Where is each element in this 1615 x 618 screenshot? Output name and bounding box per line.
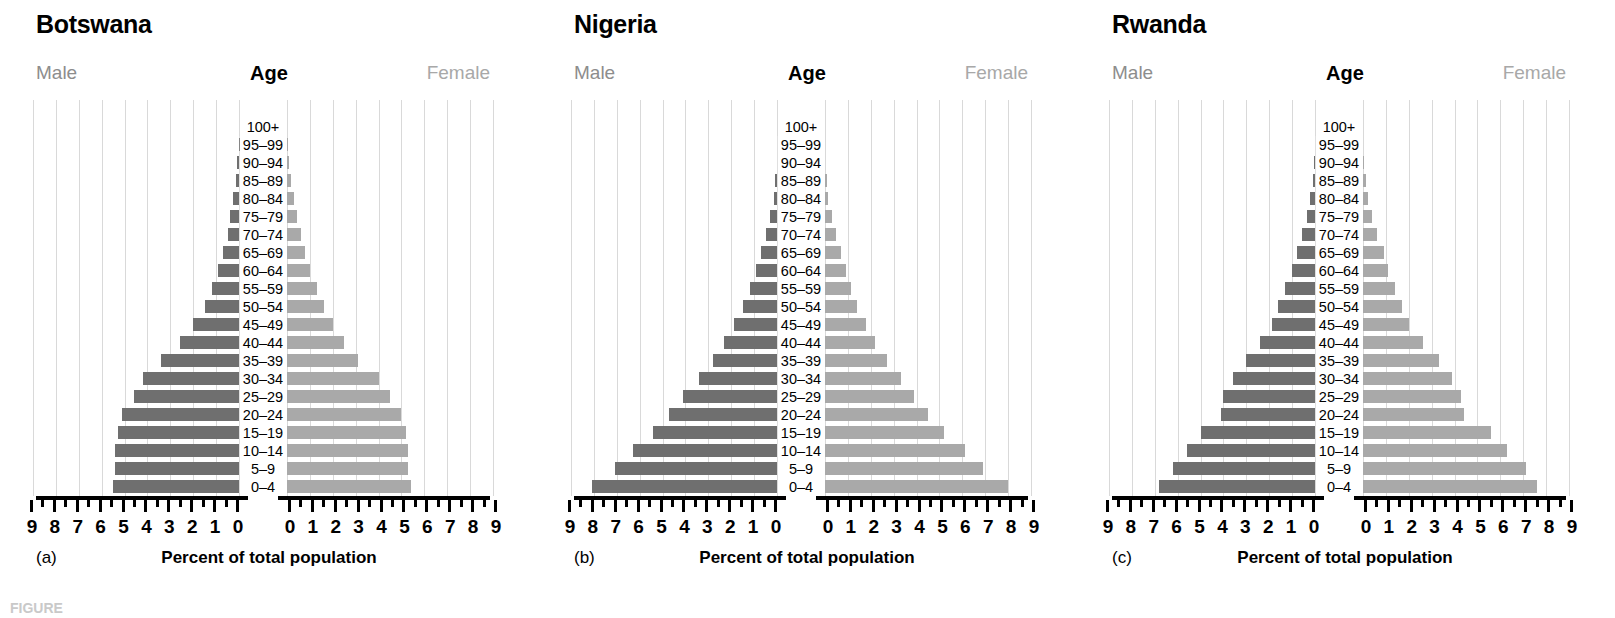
axis-tick	[671, 500, 674, 507]
female-bar	[825, 480, 1008, 493]
axis-tick-label: 5	[937, 516, 948, 538]
male-bar	[592, 480, 777, 493]
male-bar	[1307, 210, 1315, 223]
age-group-label: 10–14	[1316, 442, 1362, 460]
age-group-label: 95–99	[778, 136, 824, 154]
female-legend-label: Female	[427, 62, 490, 84]
axis-tick	[391, 500, 394, 507]
plot-area: 0–45–910–1415–1920–2425–2930–3435–3940–4…	[36, 100, 490, 496]
axis-tick	[1198, 500, 1201, 512]
pyramid-row: 40–44	[36, 334, 490, 352]
axis-tick	[202, 500, 205, 507]
x-axis	[36, 496, 490, 518]
male-bar	[143, 372, 239, 385]
pyramid-row: 10–14	[36, 442, 490, 460]
pyramid-row: 80–84	[574, 190, 1028, 208]
male-bar	[770, 210, 777, 223]
pyramid-row: 40–44	[574, 334, 1028, 352]
axis-tick	[1032, 500, 1035, 512]
axis-tick-label: 4	[914, 516, 925, 538]
axis-tick-label: 3	[164, 516, 175, 538]
pyramid-rows: 0–45–910–1415–1920–2425–2930–3435–3940–4…	[574, 100, 1028, 496]
axis-tick	[963, 500, 966, 512]
female-bar	[825, 264, 846, 277]
axis-tick	[1009, 500, 1012, 512]
female-bar	[287, 192, 294, 205]
axis-tick-label: 7	[445, 516, 456, 538]
pyramid-row: 55–59	[574, 280, 1028, 298]
female-bar	[287, 390, 390, 403]
axis-tick	[774, 500, 777, 512]
male-bar	[115, 444, 239, 457]
axis-tick	[1163, 500, 1166, 507]
axis-tick	[1547, 500, 1550, 512]
axis-tick	[1444, 500, 1447, 507]
axis-tick	[918, 500, 921, 512]
pyramid-row: 45–49	[36, 316, 490, 334]
female-bar	[825, 354, 887, 367]
female-bar	[287, 210, 297, 223]
pyramid-row: 20–24	[36, 406, 490, 424]
axis-tick	[1021, 500, 1024, 507]
age-group-label: 60–64	[240, 262, 286, 280]
axis-tick	[975, 500, 978, 507]
male-bar	[699, 372, 777, 385]
axis-tick-label: 5	[1475, 516, 1486, 538]
age-group-label: 15–19	[778, 424, 824, 442]
plot-area: 0–45–910–1415–1920–2425–2930–3435–3940–4…	[574, 100, 1028, 496]
male-bar	[115, 462, 239, 475]
panel-letter: (b)	[574, 548, 595, 568]
pyramid-row: 50–54	[1112, 298, 1566, 316]
axis-tick-label: 5	[118, 516, 129, 538]
age-group-label: 30–34	[778, 370, 824, 388]
female-bar	[825, 426, 944, 439]
axis-tick-label: 2	[1263, 516, 1274, 538]
axis-tick	[53, 500, 56, 512]
male-bar	[1285, 282, 1315, 295]
male-bar	[1278, 300, 1315, 313]
male-legend-label: Male	[36, 62, 77, 84]
age-group-label: 100+	[782, 118, 821, 136]
axis-tick	[763, 500, 766, 507]
axis-tick-label: 6	[95, 516, 106, 538]
pyramid-row: 30–34	[574, 370, 1028, 388]
pyramid-row: 70–74	[36, 226, 490, 244]
male-bar	[1201, 426, 1315, 439]
axis-tick-label: 9	[1103, 516, 1114, 538]
axis-tick-label: 2	[330, 516, 341, 538]
pyramid-row: 55–59	[36, 280, 490, 298]
axis-tick	[179, 500, 182, 507]
pyramid-row: 80–84	[36, 190, 490, 208]
pyramid-row: 35–39	[574, 352, 1028, 370]
female-bar	[1363, 318, 1409, 331]
pyramid-row: 10–14	[574, 442, 1028, 460]
axis-tick-label: 0	[771, 516, 782, 538]
axis-tick-label: 5	[656, 516, 667, 538]
female-bar	[1363, 300, 1402, 313]
axis-tick	[1232, 500, 1235, 507]
male-bar	[669, 408, 777, 421]
axis-tick-label: 2	[725, 516, 736, 538]
male-bar	[756, 264, 777, 277]
axis-tick	[41, 500, 44, 507]
age-group-label: 25–29	[1316, 388, 1362, 406]
axis-tick-labels: 98765432100123456789	[36, 516, 490, 542]
axis-tick-label: 4	[679, 516, 690, 538]
age-group-label: 65–69	[778, 244, 824, 262]
female-bar	[825, 318, 866, 331]
age-group-label: 100+	[1320, 118, 1359, 136]
male-bar	[1310, 192, 1315, 205]
age-group-label: 55–59	[778, 280, 824, 298]
axis-tick	[99, 500, 102, 512]
age-group-label: 20–24	[778, 406, 824, 424]
pyramid-row: 60–64	[1112, 262, 1566, 280]
axis-tick-label: 2	[868, 516, 879, 538]
population-pyramid-figure: BotswanaMaleAgeFemale0–45–910–1415–1920–…	[0, 0, 1615, 580]
pyramid-row: 15–19	[1112, 424, 1566, 442]
male-bar	[1233, 372, 1315, 385]
axis-tick	[357, 500, 360, 512]
pyramid-row: 65–69	[1112, 244, 1566, 262]
female-bar	[287, 462, 408, 475]
female-bar	[1363, 426, 1491, 439]
axis-tick	[1106, 500, 1109, 512]
